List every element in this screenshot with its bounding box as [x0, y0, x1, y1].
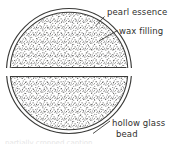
label-pearl-essence: pearl essence	[107, 7, 167, 18]
figure-page: pearl essence wax filling hollow glass b…	[0, 0, 180, 150]
label-hollow-glass-bead-line2: bead	[112, 129, 165, 140]
label-wax-filling: wax filling	[119, 26, 163, 37]
label-hollow-glass-bead-line1: hollow glass	[112, 118, 165, 128]
cropped-caption-artifact: partially cropped caption	[5, 139, 93, 144]
label-hollow-glass-bead: hollow glass bead	[112, 118, 165, 139]
